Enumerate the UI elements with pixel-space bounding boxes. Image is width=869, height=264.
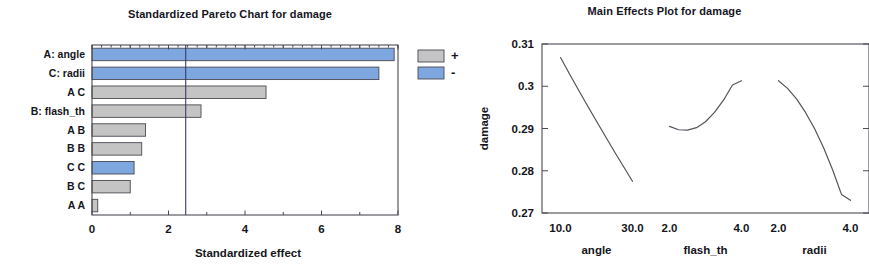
pareto-chart-title: Standardized Pareto Chart for damage — [0, 8, 460, 20]
pareto-category-label: C: radii — [49, 67, 85, 79]
pareto-bar — [92, 86, 266, 98]
pareto-category-label: C C — [67, 161, 86, 173]
pareto-x-tick-label: 4 — [242, 223, 249, 235]
pareto-bar — [92, 143, 142, 155]
pareto-chart-svg: A: angleC: radiiA CB: flash_thA BB BC CB… — [0, 0, 460, 264]
main-effects-curve — [670, 81, 742, 130]
main-effects-x-tick-label: 2.0 — [771, 222, 787, 234]
main-effects-factor-label: flash_th — [683, 244, 727, 256]
main-effects-y-tick-label: 0.3 — [518, 80, 534, 92]
pareto-bar — [92, 105, 201, 117]
main-effects-curves-group — [561, 58, 851, 201]
pareto-category-label: A C — [67, 86, 85, 98]
main-effects-group-labels: angleflash_thradii — [581, 244, 826, 256]
pareto-x-axis-title: Standardized effect — [195, 247, 301, 259]
pareto-x-tick-label: 8 — [395, 223, 402, 235]
main-effects-y-tick-label: 0.29 — [512, 123, 534, 135]
pareto-category-labels: A: angleC: radiiA CB: flash_thA BB BC CB… — [31, 48, 86, 211]
main-effects-y-axis-title: damage — [478, 107, 490, 150]
figure-root: Standardized Pareto Chart for damage A: … — [0, 0, 869, 264]
pareto-category-label: B C — [67, 180, 86, 192]
pareto-category-label: A: angle — [44, 48, 86, 60]
main-effects-x-tick-label: 2.0 — [662, 222, 678, 234]
main-effects-factor-label: radii — [802, 244, 826, 256]
main-effects-y-tick-label: 0.27 — [512, 207, 534, 219]
pareto-bar — [92, 199, 98, 211]
pareto-category-label: A B — [67, 124, 85, 136]
pareto-bar — [92, 180, 130, 192]
pareto-legend-swatch — [418, 50, 444, 62]
pareto-legend-label: - — [451, 65, 455, 80]
pareto-category-label: B B — [67, 142, 86, 154]
pareto-x-tick-label: 0 — [89, 223, 95, 235]
pareto-legend-label: + — [451, 48, 459, 63]
main-effects-factor-label: angle — [581, 244, 611, 256]
pareto-bar — [92, 67, 379, 79]
pareto-x-tick-label: 2 — [165, 223, 171, 235]
main-effects-x-tick-label: 4.0 — [842, 222, 858, 234]
pareto-bar — [92, 124, 146, 136]
main-effects-y-tick-label: 0.31 — [512, 38, 535, 50]
pareto-bar — [92, 162, 134, 174]
pareto-x-tick-label: 6 — [318, 223, 324, 235]
main-effects-x-tick-label: 4.0 — [733, 222, 749, 234]
main-effects-curve — [779, 81, 851, 201]
pareto-legend-swatch — [418, 67, 444, 79]
main-effects-svg: 0.270.280.290.30.31 10.030.02.04.02.04.0… — [460, 0, 869, 264]
pareto-bars-group — [92, 48, 394, 212]
main-effects-plot-panel: Main Effects Plot for damage 0.270.280.2… — [460, 0, 869, 264]
main-effects-curve — [561, 58, 633, 182]
pareto-chart-panel: Standardized Pareto Chart for damage A: … — [0, 0, 460, 264]
main-effects-xtick-labels: 10.030.02.04.02.04.0 — [549, 222, 858, 234]
main-effects-plot-title: Main Effects Plot for damage — [460, 5, 869, 17]
main-effects-y-tick-label: 0.28 — [512, 165, 535, 177]
main-effects-x-tick-label: 10.0 — [549, 222, 571, 234]
pareto-bar — [92, 48, 394, 60]
pareto-legend-group: +- — [418, 48, 459, 80]
pareto-category-label: B: flash_th — [31, 105, 85, 117]
pareto-category-label: A A — [68, 199, 86, 211]
main-effects-x-tick-label: 30.0 — [621, 222, 643, 234]
